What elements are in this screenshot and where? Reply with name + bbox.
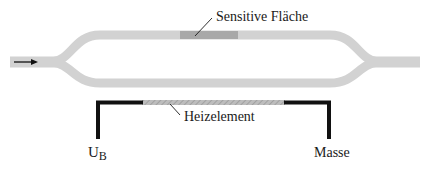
ground-wire xyxy=(284,103,329,140)
heater-label: Heizelement xyxy=(184,109,255,124)
heater-element xyxy=(142,100,285,105)
sensitive-area-label: Sensitive Fläche xyxy=(216,9,308,24)
supply-voltage-subscript: B xyxy=(99,149,107,163)
supply-wire xyxy=(98,103,143,140)
supply-voltage-label: UB xyxy=(88,144,107,163)
upper-branch xyxy=(52,35,378,62)
heater-leader xyxy=(170,104,180,115)
ground-label: Masse xyxy=(314,145,350,160)
sensitive-area xyxy=(180,31,238,39)
lower-branch xyxy=(52,62,378,83)
flow-sensor-diagram: Sensitive Fläche Heizelement UB Masse xyxy=(0,0,426,169)
flow-channel xyxy=(10,35,420,83)
supply-voltage-main: U xyxy=(88,144,99,160)
